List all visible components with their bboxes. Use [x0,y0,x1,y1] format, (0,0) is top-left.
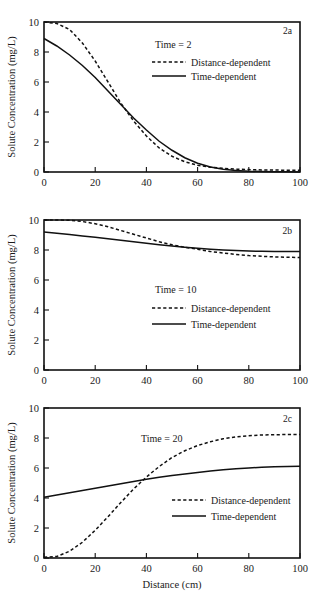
x-tick-label: 0 [41,375,46,386]
legend-2a: Distance-dependent Time-dependent [152,57,271,82]
y-tick-label: 8 [34,433,39,444]
x-tick-label: 80 [244,563,255,574]
chart-svg-2c: 0 2 4 6 8 10 0 20 40 60 80 100 Solute Co… [0,394,322,607]
annotation-time-2a: Time = 2 [155,39,191,50]
y-axis-label-2c: Solute Concentration (mg/L) [6,422,18,544]
legend-2b: Distance-dependent Time-dependent [152,303,271,330]
y-tick-label: 8 [34,47,39,58]
y-tick-label: 0 [34,553,39,564]
x-tick-labels-2b: 0 20 40 60 80 100 [41,375,308,386]
x-tick-labels-2c: 0 20 40 60 80 100 [41,563,308,574]
y-tick-label: 0 [34,365,39,376]
annotation-time-2b: Time = 10 [155,284,196,295]
chart-panel-2a: 0 2 4 6 8 10 0 20 40 60 80 100 Solute Co… [0,0,322,200]
y-tick-label: 8 [34,245,39,256]
y-tick-label: 10 [29,215,40,226]
x-tick-label: 80 [244,177,255,188]
chart-panel-2b: 0 2 4 6 8 10 0 20 40 60 80 100 Solute Co… [0,198,322,396]
x-tick-label: 60 [192,375,203,386]
legend-label-time-2b: Time-dependent [191,319,256,330]
x-tick-label: 40 [141,177,152,188]
y-tick-label: 2 [34,335,39,346]
x-tick-label: 20 [90,375,101,386]
x-axis-label-2c: Distance (cm) [142,579,202,591]
chart-panel-2c: 0 2 4 6 8 10 0 20 40 60 80 100 Solute Co… [0,394,322,607]
x-tick-label: 100 [292,177,308,188]
figure-container: 0 2 4 6 8 10 0 20 40 60 80 100 Solute Co… [0,0,322,607]
y-tick-label: 4 [34,305,40,316]
x-tick-label: 40 [141,375,152,386]
legend-label-distance-2b: Distance-dependent [191,303,271,314]
y-tick-label: 6 [34,77,39,88]
x-tick-label: 0 [41,563,46,574]
y-tick-label: 0 [34,167,39,178]
y-tick-labels-2b: 0 2 4 6 8 10 [29,215,40,376]
x-tick-label: 0 [41,177,46,188]
y-tick-label: 2 [34,523,39,534]
y-tick-label: 4 [34,107,40,118]
annotation-time-2c: Time = 20 [141,433,182,444]
chart-svg-2a: 0 2 4 6 8 10 0 20 40 60 80 100 Solute Co… [0,0,322,200]
x-tick-label: 20 [90,177,101,188]
x-tick-label: 80 [244,375,255,386]
panel-label-2a: 2a [283,26,293,36]
panel-label-2c: 2c [283,414,292,424]
legend-label-distance-2a: Distance-dependent [191,57,271,68]
x-tick-label: 100 [292,563,308,574]
y-tick-labels-2a: 0 2 4 6 8 10 [29,17,40,178]
x-tick-label: 60 [192,563,203,574]
y-tick-label: 6 [34,463,39,474]
y-tick-label: 2 [34,137,39,148]
x-tick-label: 20 [90,563,101,574]
y-tick-labels-2c: 0 2 4 6 8 10 [29,403,40,564]
y-axis-label-2a: Solute Concentration (mg/L) [6,36,18,158]
legend-2c: Distance-dependent Time-dependent [172,495,291,522]
y-tick-label: 6 [34,275,39,286]
legend-label-distance-2c: Distance-dependent [211,495,291,506]
series-time-dependent-2b [44,232,300,252]
plot-frame-2c [44,408,300,558]
plot-frame-2b [44,220,300,370]
x-tick-label: 100 [292,375,308,386]
y-axis-label-2b: Solute Concentration (mg/L) [6,234,18,356]
legend-label-time-2c: Time-dependent [211,511,276,522]
panel-label-2b: 2b [283,226,293,236]
y-tick-label: 10 [29,403,40,414]
legend-label-time-2a: Time-dependent [191,71,256,82]
y-tick-label: 4 [34,493,40,504]
chart-svg-2b: 0 2 4 6 8 10 0 20 40 60 80 100 Solute Co… [0,198,322,396]
x-tick-label: 60 [192,177,203,188]
series-time-dependent-2c [44,466,300,497]
x-tick-label: 40 [141,563,152,574]
x-tick-labels-2a: 0 20 40 60 80 100 [41,177,308,188]
y-tick-label: 10 [29,17,40,28]
